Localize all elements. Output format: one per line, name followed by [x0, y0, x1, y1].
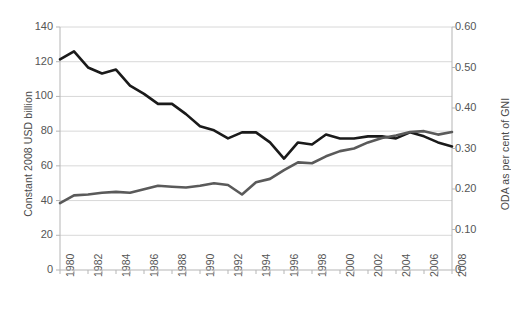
axis-tick-marks [56, 27, 456, 274]
series-line-1 [60, 131, 452, 203]
data-series-group [60, 51, 452, 203]
axis-lines [60, 27, 452, 270]
series-line-0 [60, 51, 452, 158]
